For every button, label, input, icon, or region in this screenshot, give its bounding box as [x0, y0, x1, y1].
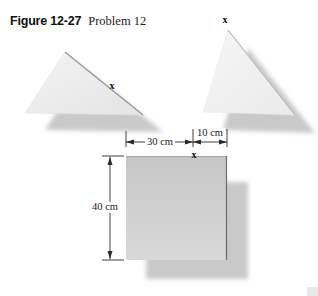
arrowhead-30cm-right	[185, 139, 193, 144]
x-marker-square: x	[192, 150, 197, 160]
dim-10cm-label: 10 cm	[195, 128, 225, 139]
arrowhead-10cm-right	[219, 140, 227, 145]
problem-number-label: Problem 12	[88, 14, 146, 28]
arrowhead-40cm-top	[108, 157, 113, 165]
right-triangle-plate	[203, 30, 295, 115]
arrowhead-10cm-left	[193, 140, 201, 145]
arrowhead-30cm-left	[126, 139, 134, 144]
left-triangle-plate	[25, 52, 143, 115]
figure-number-label: Figure 12-27	[10, 14, 81, 28]
page-artifact	[307, 287, 318, 296]
arrowhead-40cm-bottom	[108, 251, 113, 259]
square-plate	[126, 156, 227, 260]
x-marker-right-triangle: x	[223, 15, 228, 25]
figure-caption: Figure 12-27 Problem 12	[10, 13, 146, 28]
x-marker-left-triangle: x	[110, 81, 115, 91]
figure-drawing	[0, 0, 318, 296]
dim-30cm-label: 30 cm	[145, 137, 175, 148]
figure-12-27: Figure 12-27 Problem 12 30 cm 10 cm 40 c…	[0, 0, 318, 296]
dim-40cm-label: 40 cm	[90, 202, 120, 213]
